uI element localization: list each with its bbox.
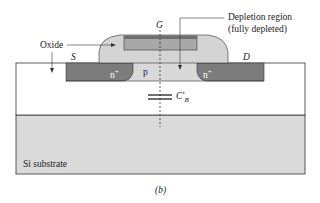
substrate-label: Si substrate <box>23 160 67 170</box>
n-plus-source-label: n+ <box>110 69 119 81</box>
gate-label: G <box>156 21 163 31</box>
drain-label: D <box>243 53 250 63</box>
n-plus-drain-label: n+ <box>203 69 212 81</box>
gate-top-layer <box>124 36 197 39</box>
oxide-label: Oxide <box>40 41 63 51</box>
source-label: S <box>71 53 76 63</box>
p-region-label: p <box>143 68 148 78</box>
caption: (b) <box>155 186 166 196</box>
n-plus-source <box>66 63 133 81</box>
depletion-note: (fully depleted) <box>228 25 287 35</box>
capacitor-label: C′B <box>176 92 189 104</box>
depletion-label: Depletion region <box>228 13 292 23</box>
